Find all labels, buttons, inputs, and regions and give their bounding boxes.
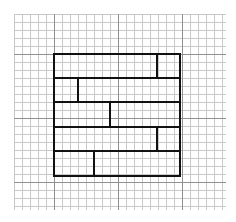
brick-dividers (78, 54, 157, 176)
grid-minor-lines (14, 14, 226, 210)
outer-rectangle (54, 54, 180, 176)
row-dividers (54, 78, 180, 151)
grid-major-lines (14, 14, 226, 210)
grid-diagram (0, 0, 236, 222)
